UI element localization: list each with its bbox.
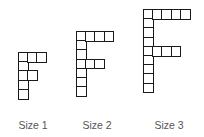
grid-square	[180, 9, 191, 20]
grid-square	[94, 59, 105, 70]
grid-square	[18, 89, 29, 100]
label-size-1: Size 1	[8, 119, 58, 131]
label-size-2: Size 2	[72, 119, 122, 131]
label-size-3: Size 3	[144, 119, 194, 131]
grid-square	[36, 52, 47, 63]
grid-square	[27, 70, 38, 81]
grid-square	[76, 86, 87, 97]
grid-square	[104, 31, 115, 42]
grid-square	[143, 83, 154, 94]
grid-square	[171, 46, 182, 57]
